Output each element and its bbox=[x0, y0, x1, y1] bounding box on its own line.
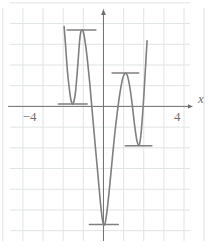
x-tick-label-neg4: −4 bbox=[23, 109, 37, 124]
x-tick-labels: −4 4 bbox=[23, 109, 181, 124]
x-tick-label-pos4: 4 bbox=[174, 109, 181, 124]
graph-figure: −4 4 x bbox=[0, 0, 218, 247]
polynomial-curve bbox=[64, 27, 147, 226]
y-axis-arrowhead bbox=[101, 9, 106, 15]
function-plot: −4 4 x bbox=[0, 0, 218, 247]
curve-group bbox=[64, 27, 147, 226]
x-axis-arrowhead bbox=[188, 104, 193, 108]
x-axis-label: x bbox=[197, 91, 204, 106]
